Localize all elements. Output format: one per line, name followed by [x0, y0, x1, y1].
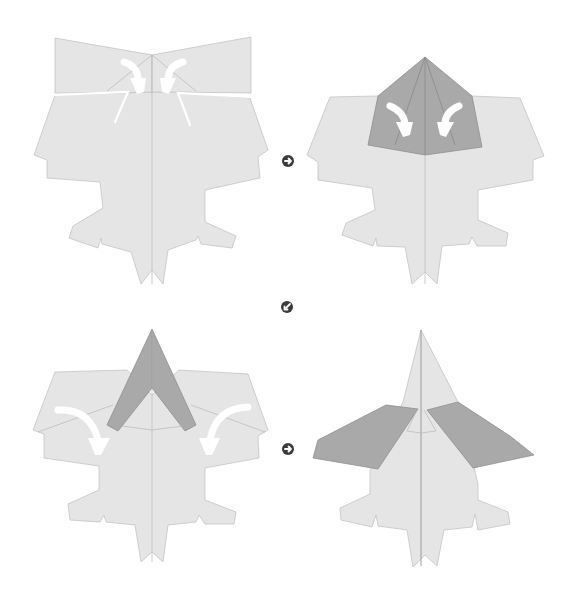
panel-3 [33, 329, 268, 562]
jet-body [34, 92, 268, 284]
origami-diagram [0, 0, 567, 593]
next-step-down-left-icon [281, 301, 293, 313]
next-step-right-icon [282, 443, 294, 455]
panel-1 [34, 37, 268, 284]
panel-2 [307, 57, 544, 284]
next-step-right-icon [282, 155, 294, 167]
panel-4 [313, 330, 534, 567]
jet-body [33, 370, 268, 562]
